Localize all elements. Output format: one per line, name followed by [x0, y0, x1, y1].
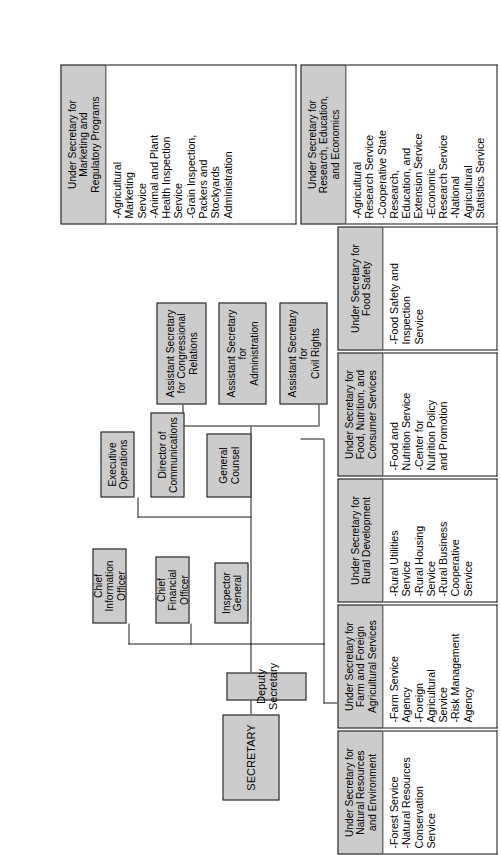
group-header[interactable]: Under Secretary for Marketing and Regula… — [60, 64, 106, 224]
agency-item: -Farm Service Agency — [387, 609, 412, 722]
connector-asstsec-spine — [182, 425, 318, 426]
connector-staff-spine — [128, 643, 251, 644]
group-header[interactable]: Under Secretary for Research, Education,… — [300, 64, 346, 224]
agency-item: -Food and Nutrition Service — [387, 357, 412, 470]
under-secretary-group-rural-development: Under Secretary for Rural Development -R… — [337, 478, 497, 602]
assistant-secretary-administration[interactable]: Assistant Secretary for Administration — [218, 302, 266, 404]
agency-item: -Forest Service — [387, 735, 399, 848]
agency-item: -Rural Housing Service — [412, 483, 437, 596]
agency-item: -National Agricultural Statistics Servic… — [448, 69, 485, 218]
group-header[interactable]: Under Secretary for Rural Development — [337, 478, 383, 602]
agency-item: -Rural Business Cooperative Service — [436, 483, 473, 596]
group-header[interactable]: Under Secretary for Natural Resources an… — [337, 730, 383, 854]
connector-undersec-spine — [250, 643, 324, 644]
agency-item: -Natural Resources Conservation Service — [399, 735, 436, 848]
agency-item: -Agricultural Research Service — [350, 69, 375, 218]
agency-item: -Economic Research Service — [424, 69, 449, 218]
group-agency-list: -Forest Service -Natural Resources Conse… — [383, 730, 497, 854]
under-secretary-group-food-safety: Under Secretary for Food Safety -Food Sa… — [337, 226, 497, 350]
connector-staff-2 — [190, 623, 191, 644]
connector-undersec-left-drop — [323, 702, 337, 703]
agency-item: -Center for Nutrition Policy and Promoti… — [412, 357, 449, 470]
connector-staff-1 — [128, 623, 129, 644]
connector-staff-3 — [137, 497, 138, 517]
group-agency-list: -Food Safety and Inspection Service — [383, 226, 497, 350]
staff-box-chief-financial-officer[interactable]: Chief Financial Officer — [155, 556, 189, 623]
group-agency-list: -Food and Nutrition Service -Center for … — [383, 352, 497, 476]
staff-box-chief-information-officer[interactable]: Chief Information Officer — [92, 548, 126, 623]
assistant-secretary-congressional-relations[interactable]: Assistant Secretary for Congressional Re… — [156, 302, 206, 404]
group-header[interactable]: Under Secretary for Food, Nutrition, and… — [337, 352, 383, 476]
node-deputy-secretary[interactable]: Deputy Secretary — [226, 672, 306, 700]
group-agency-list: -Agricultural Research Service -Cooperat… — [346, 64, 497, 224]
agency-item: -Animal and Plant Health Inspection Serv… — [147, 69, 184, 218]
connector-secretary-deputy — [250, 700, 251, 714]
under-secretary-group-farm-foreign-agricultural-services: Under Secretary for Farm and Foreign Agr… — [337, 604, 497, 728]
agency-item: -Foreign Agricultural Service — [412, 609, 449, 722]
under-secretary-group-natural-resources: Under Secretary for Natural Resources an… — [337, 730, 497, 854]
under-secretary-group-marketing-regulatory-programs: Under Secretary for Marketing and Regula… — [60, 64, 296, 224]
under-secretary-group-research-education-economics: Under Secretary for Research, Education,… — [300, 64, 497, 224]
connector-undersec-run — [323, 439, 324, 644]
agency-item: -Cooperative State Research, Education, … — [375, 69, 424, 218]
connector-undersec-right-drop — [300, 438, 324, 439]
staff-box-director-of-communications[interactable]: Director of Communications — [150, 412, 184, 497]
agency-item: -Food Safety and Inspection Service — [387, 231, 424, 344]
group-agency-list: -Agricultural Marketing Service -Animal … — [106, 64, 296, 224]
agency-item: -Grain Inspection, Packers and Stockyard… — [184, 69, 233, 218]
under-secretary-group-food-nutrition-consumer-services: Under Secretary for Food, Nutrition, and… — [337, 352, 497, 476]
agency-item: -Risk Management Agency — [448, 609, 473, 722]
group-header[interactable]: Under Secretary for Food Safety — [337, 226, 383, 350]
org-chart-canvas: SECRETARY Deputy Secretary Chief Informa… — [0, 0, 501, 855]
connector-undersec-left — [323, 643, 324, 703]
connector-asstsec-3 — [318, 404, 319, 426]
node-secretary[interactable]: SECRETARY — [222, 714, 279, 800]
staff-box-general-counsel[interactable]: General Counsel — [206, 433, 251, 497]
agency-item: -Rural Utilities Service — [387, 483, 412, 596]
staff-box-inspector-general[interactable]: Inspector General — [214, 562, 248, 623]
assistant-secretary-civil-rights[interactable]: Assistant Secretary for Civil Rights — [279, 302, 327, 404]
staff-box-executive-operations[interactable]: Executive Operations — [100, 431, 134, 497]
group-header[interactable]: Under Secretary for Farm and Foreign Agr… — [337, 604, 383, 728]
group-agency-list: -Rural Utilities Service -Rural Housing … — [383, 478, 497, 602]
group-agency-list: -Farm Service Agency -Foreign Agricultur… — [383, 604, 497, 728]
connector-staff-spine-right — [137, 516, 251, 517]
agency-item: -Agricultural Marketing Service — [110, 69, 147, 218]
